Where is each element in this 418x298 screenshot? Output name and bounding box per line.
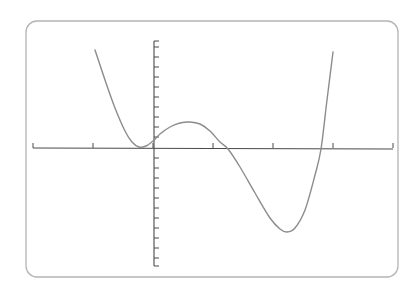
chart-plot — [0, 0, 418, 298]
